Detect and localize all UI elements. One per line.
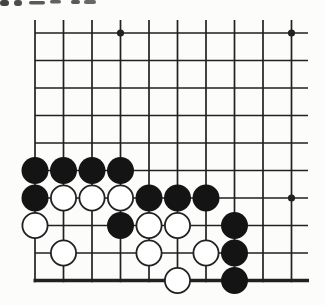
white-stone[interactable] xyxy=(51,240,76,265)
cropped-text-fragment xyxy=(71,0,80,4)
black-stone[interactable] xyxy=(221,240,248,267)
white-stone[interactable] xyxy=(22,213,47,238)
black-stone[interactable] xyxy=(107,157,134,184)
white-stone[interactable] xyxy=(165,268,190,293)
star-point xyxy=(288,29,295,36)
black-stone[interactable] xyxy=(221,267,248,294)
cropped-text-fragment xyxy=(84,0,96,4)
cropped-text-fragment xyxy=(0,0,9,6)
cropped-text-fragment xyxy=(50,0,61,4)
star-point xyxy=(288,194,295,201)
white-stone[interactable] xyxy=(136,240,161,265)
black-stone[interactable] xyxy=(193,185,220,212)
black-stone[interactable] xyxy=(79,157,106,184)
cropped-text-fragment xyxy=(14,0,22,6)
white-stone[interactable] xyxy=(165,213,190,238)
white-stone[interactable] xyxy=(108,185,133,210)
white-stone[interactable] xyxy=(193,240,218,265)
cropped-text-fragment xyxy=(29,1,45,5)
white-stone[interactable] xyxy=(79,185,104,210)
white-stone[interactable] xyxy=(136,213,161,238)
white-stone[interactable] xyxy=(51,185,76,210)
black-stone[interactable] xyxy=(221,212,248,239)
black-stone[interactable] xyxy=(22,157,49,184)
go-board[interactable] xyxy=(0,0,325,305)
scanned-diagram-page xyxy=(0,0,325,305)
black-stone[interactable] xyxy=(22,185,49,212)
black-stone[interactable] xyxy=(164,185,191,212)
star-point xyxy=(117,29,124,36)
black-stone[interactable] xyxy=(136,185,163,212)
black-stone[interactable] xyxy=(50,157,77,184)
black-stone[interactable] xyxy=(107,212,134,239)
